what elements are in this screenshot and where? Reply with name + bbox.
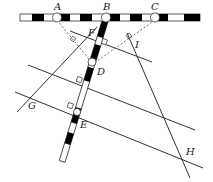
- label-h: H: [185, 146, 195, 157]
- parallel-line-upper: [28, 65, 195, 130]
- label-a: A: [53, 1, 61, 12]
- right-angle-marker-upper: [76, 76, 82, 82]
- point-b-marker: [102, 13, 111, 22]
- right-angle-marker-lower: [67, 102, 73, 108]
- point-a-marker: [53, 13, 62, 22]
- label-d: D: [96, 66, 105, 77]
- parallel-line-lower: [15, 92, 203, 168]
- label-b: B: [102, 1, 110, 12]
- line-through-i-h: [127, 33, 190, 178]
- point-c-marker: [151, 13, 160, 22]
- label-c: C: [151, 1, 159, 12]
- point-e-marker: [74, 109, 81, 116]
- label-g: G: [28, 100, 36, 111]
- geometry-diagram: A B C F I D G E H: [0, 0, 213, 182]
- label-f: F: [87, 27, 96, 38]
- label-e: E: [79, 119, 88, 130]
- label-i: I: [134, 39, 140, 50]
- slanted-rod: [59, 17, 109, 162]
- line-through-f: [70, 31, 152, 62]
- point-d-marker: [88, 58, 96, 66]
